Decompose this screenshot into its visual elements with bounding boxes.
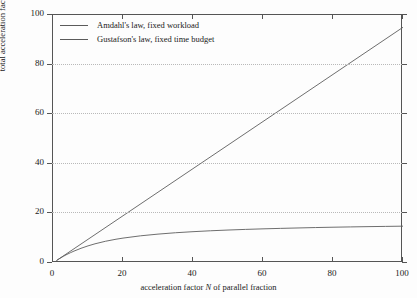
chart-legend: Amdahl's law, fixed workload Gustafson's… (60, 18, 260, 46)
y-tick-label-100: 100 (4, 9, 44, 18)
x-tick-mark-100-top (402, 14, 403, 19)
y-tick-label-60: 60 (4, 108, 44, 117)
y-tick-label-40: 40 (4, 158, 44, 167)
y-tick-mark-80-right (402, 64, 407, 65)
x-tick-label-40: 40 (172, 269, 212, 278)
x-tick-mark-20-bottom (122, 257, 123, 262)
y-tick-mark-0-left (47, 262, 52, 263)
y-tick-mark-40-right (402, 163, 407, 164)
curve-layer (53, 15, 403, 263)
legend-swatch-amdahl (60, 25, 88, 26)
y-tick-mark-40-left (47, 163, 52, 164)
x-tick-mark-80-top (332, 14, 333, 19)
y-axis-label: total acceleration factor a (0, 0, 7, 108)
y-tick-mark-60-left (47, 113, 52, 114)
y-tick-label-20: 20 (4, 207, 44, 216)
x-tick-mark-80-bottom (332, 257, 333, 262)
series-line-amdahl (57, 226, 404, 260)
gridline-y-40 (52, 163, 402, 164)
x-tick-label-0: 0 (32, 269, 72, 278)
x-tick-mark-0-bottom (52, 257, 53, 262)
x-axis-label: acceleration factor N of parallel fracti… (0, 283, 417, 292)
axis-symbol: N (206, 282, 212, 292)
plot-area (52, 14, 402, 262)
y-tick-mark-60-right (402, 113, 407, 114)
legend-item-amdahl: Amdahl's law, fixed workload (60, 18, 260, 32)
x-tick-mark-100-bottom (402, 257, 403, 262)
gridline-y-20 (52, 212, 402, 213)
x-tick-label-60: 60 (242, 269, 282, 278)
legend-label-amdahl: Amdahl's law, fixed workload (97, 21, 199, 30)
series-line-gustafson (57, 27, 404, 260)
x-tick-label-20: 20 (102, 269, 142, 278)
x-tick-mark-60-bottom (262, 257, 263, 262)
y-tick-mark-80-left (47, 64, 52, 65)
x-tick-mark-0-top (52, 14, 53, 19)
y-tick-mark-20-left (47, 212, 52, 213)
legend-label-gustafson: Gustafson's law, fixed time budget (97, 35, 214, 44)
y-tick-mark-0-right (402, 262, 407, 263)
y-tick-mark-20-right (402, 212, 407, 213)
x-tick-label-80: 80 (312, 269, 352, 278)
x-tick-mark-60-top (262, 14, 263, 19)
y-tick-label-0: 0 (4, 257, 44, 266)
legend-item-gustafson: Gustafson's law, fixed time budget (60, 32, 260, 46)
gridline-y-60 (52, 113, 402, 114)
chart-figure: 020406080100020406080100 Amdahl's law, f… (0, 0, 417, 298)
gridline-y-80 (52, 64, 402, 65)
y-tick-label-80: 80 (4, 59, 44, 68)
x-tick-label-100: 100 (382, 269, 417, 278)
x-tick-mark-40-bottom (192, 257, 193, 262)
legend-swatch-gustafson (60, 39, 88, 40)
